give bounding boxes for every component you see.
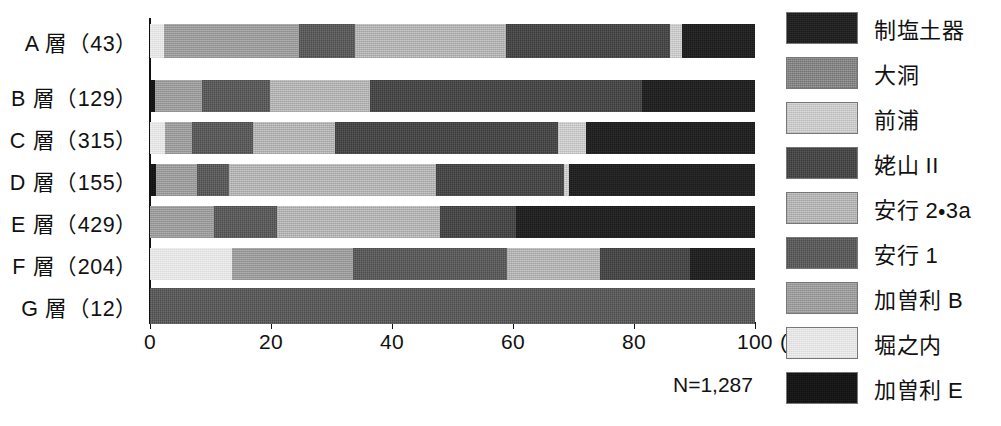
bar-segment-kasoriB xyxy=(150,206,214,238)
bar-segment-angyo23 xyxy=(253,122,335,154)
x-tick-label: 0 xyxy=(144,330,156,354)
legend-swatch-dairyu xyxy=(786,57,858,89)
legend-item-dairyu[interactable]: 大洞 xyxy=(786,56,919,90)
bar-segment-ubayama xyxy=(370,80,643,112)
y-axis-label: A 層（43） xyxy=(25,26,138,57)
legend-swatch-angyo1 xyxy=(786,237,858,269)
legend-swatch-horinouchi xyxy=(786,327,858,359)
y-axis-label: G 層（12） xyxy=(21,291,138,322)
legend-label: 安行 2・3a xyxy=(874,192,971,224)
bar-segment-angyo1 xyxy=(197,164,228,196)
bar-segment-horinouchi xyxy=(150,248,232,280)
bar-segment-angyo1 xyxy=(192,122,253,154)
bar-row xyxy=(150,288,755,324)
legend-label: 加曽利 E xyxy=(874,372,963,404)
bar-segment-ubayama xyxy=(436,164,564,196)
n-total-annotation: N=1,287 xyxy=(673,373,753,397)
legend-label: 加曽利 B xyxy=(874,282,963,314)
legend-label: 制塩土器 xyxy=(874,12,964,44)
bar-segment-seien xyxy=(516,206,755,238)
legend-item-kasoriB[interactable]: 加曽利 B xyxy=(786,281,963,315)
bar-segment-maeura xyxy=(558,122,585,154)
bar-segment-horinouchi xyxy=(150,122,165,154)
x-tick-label: 100 xyxy=(737,330,773,354)
y-axis-label: D 層（155） xyxy=(10,165,138,196)
bar-segment-ubayama xyxy=(335,122,559,154)
bar-segment-angyo23 xyxy=(229,164,436,196)
plot-area xyxy=(150,18,755,328)
bar-row xyxy=(150,248,755,280)
bar-segment-angyo23 xyxy=(507,248,600,280)
stacked-bar xyxy=(150,80,755,112)
legend-item-ubayama[interactable]: 姥山 II xyxy=(786,146,939,180)
bar-segment-kasoriB xyxy=(156,164,197,196)
bar-row xyxy=(150,122,755,154)
bar-segment-ubayama xyxy=(440,206,516,238)
stacked-bar xyxy=(150,248,755,280)
legend-item-horinouchi[interactable]: 堀之内 xyxy=(786,326,942,360)
legend-label: 堀之内 xyxy=(874,327,942,359)
stacked-bar xyxy=(150,288,755,324)
y-axis-label: E 層（429） xyxy=(11,207,138,238)
bar-segment-seien xyxy=(569,164,755,196)
legend-item-kasoriE[interactable]: 加曽利 E xyxy=(786,371,963,405)
bar-segment-seien xyxy=(586,122,755,154)
legend-swatch-seien xyxy=(786,12,858,44)
x-tick-label: 20 xyxy=(259,330,283,354)
bar-row xyxy=(150,206,755,238)
legend-item-seien[interactable]: 制塩土器 xyxy=(786,11,964,45)
y-axis-label: C 層（315） xyxy=(10,123,138,154)
legend: 制塩土器大洞前浦姥山 II安行 2・3a安行 1加曽利 B堀之内加曽利 E xyxy=(786,11,1001,421)
x-tick-label: 40 xyxy=(380,330,404,354)
legend-item-angyo23[interactable]: 安行 2・3a xyxy=(786,191,971,225)
stacked-bar xyxy=(150,206,755,238)
x-tick xyxy=(755,322,756,329)
bar-segment-angyo1 xyxy=(299,24,355,58)
legend-item-maeura[interactable]: 前浦 xyxy=(786,101,919,135)
stacked-bar xyxy=(150,24,755,58)
bar-segment-angyo1 xyxy=(150,288,755,324)
bar-segment-kasoriB xyxy=(232,248,353,280)
bar-segment-ubayama xyxy=(506,24,670,58)
stacked-bar xyxy=(150,122,755,154)
bar-segment-seien xyxy=(642,80,755,112)
bar-segment-seien xyxy=(682,24,755,58)
legend-label: 大洞 xyxy=(874,57,919,89)
bar-segment-seien xyxy=(690,248,755,280)
x-tick-label: 60 xyxy=(501,330,525,354)
legend-swatch-kasoriB xyxy=(786,282,858,314)
y-axis-label: F 層（204） xyxy=(12,249,138,280)
bar-segment-kasoriB xyxy=(165,122,192,154)
bar-segment-ubayama xyxy=(600,248,691,280)
bar-row xyxy=(150,164,755,196)
x-tick-label: 80 xyxy=(622,330,646,354)
legend-swatch-kasoriE xyxy=(786,372,858,404)
bar-segment-horinouchi xyxy=(150,24,164,58)
bar-segment-kasoriB xyxy=(155,80,202,112)
bar-segment-angyo23 xyxy=(277,206,440,238)
chart-figure: A 層（43）B 層（129）C 層（315）D 層（155）E 層（429）F… xyxy=(0,0,1001,426)
legend-swatch-angyo23 xyxy=(786,192,858,224)
stacked-bar xyxy=(150,164,755,196)
bar-segment-angyo1 xyxy=(353,248,507,280)
legend-swatch-maeura xyxy=(786,102,858,134)
legend-label: 姥山 II xyxy=(874,147,939,179)
bar-segment-angyo23 xyxy=(355,24,506,58)
legend-label: 前浦 xyxy=(874,102,919,134)
bar-row xyxy=(150,24,755,58)
legend-item-angyo1[interactable]: 安行 1 xyxy=(786,236,938,270)
bar-segment-kasoriB xyxy=(164,24,299,58)
bar-segment-angyo23 xyxy=(270,80,370,112)
bar-segment-angyo1 xyxy=(202,80,270,112)
y-axis-labels: A 層（43）B 層（129）C 層（315）D 層（155）E 層（429）F… xyxy=(0,0,150,340)
legend-label: 安行 1 xyxy=(874,237,938,269)
y-axis-label: B 層（129） xyxy=(11,81,138,112)
bar-row xyxy=(150,80,755,112)
bar-segment-maeura xyxy=(670,24,682,58)
bar-segment-angyo1 xyxy=(214,206,278,238)
legend-swatch-ubayama xyxy=(786,147,858,179)
